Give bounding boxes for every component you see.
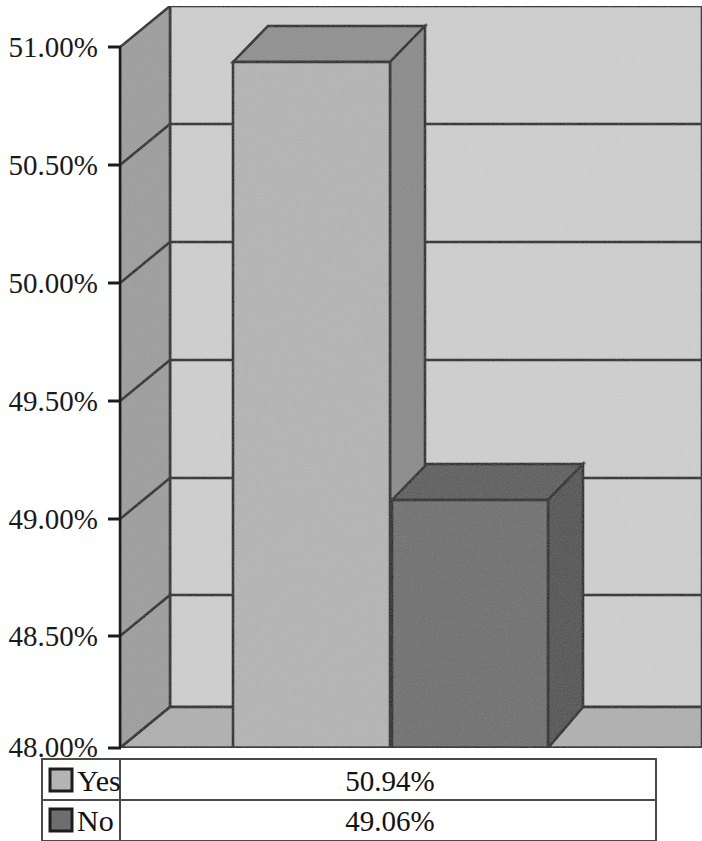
- legend-value-no: 49.06%: [345, 805, 434, 837]
- legend-label-no: No: [77, 804, 114, 837]
- legend-label-yes: Yes: [77, 764, 121, 797]
- y-tick-label-49-00: 49.00%: [9, 503, 98, 535]
- chart-container: 51.00% 50.50% 50.00% 49.50% 49.00% 48.50…: [0, 0, 702, 841]
- legend-value-yes: 50.94%: [345, 765, 434, 797]
- bar-no-side-face: [548, 464, 583, 748]
- plot-left-wall: [120, 6, 170, 748]
- legend-swatch-yes-icon: [50, 769, 72, 791]
- bar-yes-front-face[interactable]: [233, 62, 390, 748]
- legend-swatch-no-icon: [50, 809, 72, 831]
- y-tick-label-50-00: 50.00%: [9, 267, 98, 299]
- y-tick-label-50-50: 50.50%: [9, 149, 98, 181]
- y-tick-label-51-00: 51.00%: [9, 31, 98, 63]
- legend-table: Yes 50.94% No 49.06%: [42, 759, 656, 841]
- bar-chart-3d: 51.00% 50.50% 50.00% 49.50% 49.00% 48.50…: [0, 0, 702, 841]
- y-tick-label-48-50: 48.50%: [9, 620, 98, 652]
- bar-no-front-face[interactable]: [392, 500, 548, 748]
- y-tick-label-49-50: 49.50%: [9, 385, 98, 417]
